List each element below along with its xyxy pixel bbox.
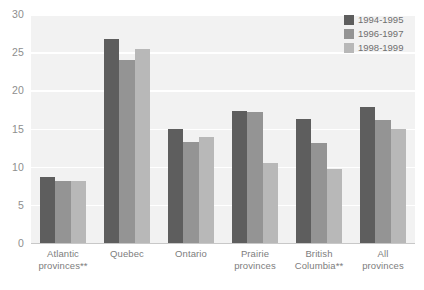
bar-group — [95, 14, 159, 243]
bar — [135, 49, 151, 243]
x-axis-category-label: Prairieprovinces — [223, 248, 287, 272]
legend-item[interactable]: 1994-1995 — [344, 13, 422, 26]
category-label-line: provinces — [351, 260, 415, 272]
y-axis-tick-label: 10 — [0, 161, 24, 172]
legend-swatch-icon — [344, 29, 354, 39]
y-axis-tick-label: 25 — [0, 47, 24, 58]
category-label-line: provinces** — [31, 260, 95, 272]
x-axis-category-label: Quebec — [95, 248, 159, 260]
bar-group — [31, 14, 95, 243]
bar — [327, 169, 343, 243]
bar — [232, 111, 248, 243]
x-axis-category-labels: Atlanticprovinces**QuebecOntarioPrairiep… — [31, 248, 415, 288]
legend-swatch-icon — [344, 43, 354, 53]
bar — [40, 177, 56, 243]
bar — [296, 119, 312, 243]
legend-label: 1996-1997 — [358, 28, 403, 39]
bar-group — [159, 14, 223, 243]
bar — [360, 107, 376, 243]
chart-legend: 1994-19951996-19971998-1999 — [344, 13, 422, 55]
bar-group — [223, 14, 287, 243]
x-axis-baseline — [31, 243, 415, 244]
category-label-line: All — [351, 248, 415, 260]
legend-item[interactable]: 1998-1999 — [344, 41, 422, 54]
y-axis-tick-label: 5 — [0, 200, 24, 211]
bar — [55, 181, 71, 243]
bar — [71, 181, 87, 243]
y-axis-tick-label: 15 — [0, 123, 24, 134]
category-label-line: provinces — [223, 260, 287, 272]
bar — [183, 142, 199, 243]
bar — [263, 163, 279, 243]
bar — [247, 112, 263, 243]
legend-item[interactable]: 1996-1997 — [344, 27, 422, 40]
bar — [104, 39, 120, 243]
category-label-line: Prairie — [223, 248, 287, 260]
bar — [119, 60, 135, 243]
category-label-line: Quebec — [95, 248, 159, 260]
y-axis-tick-label: 0 — [0, 238, 24, 249]
bar — [375, 120, 391, 243]
y-axis: 051015202530 — [0, 0, 30, 290]
category-label-line: Atlantic — [31, 248, 95, 260]
bar-group — [287, 14, 351, 243]
bar — [199, 137, 215, 243]
category-label-line: Ontario — [159, 248, 223, 260]
category-label-line: British — [287, 248, 351, 260]
x-axis-category-label: Ontario — [159, 248, 223, 260]
legend-label: 1994-1995 — [358, 14, 403, 25]
x-axis-category-label: Allprovinces — [351, 248, 415, 272]
x-axis-category-label: BritishColumbia** — [287, 248, 351, 272]
legend-swatch-icon — [344, 15, 354, 25]
y-axis-tick-label: 30 — [0, 9, 24, 20]
bar — [311, 143, 327, 243]
bar — [168, 129, 184, 243]
x-axis-category-label: Atlanticprovinces** — [31, 248, 95, 272]
bar — [391, 129, 407, 244]
legend-label: 1998-1999 — [358, 42, 403, 53]
bar-chart: 051015202530 Atlanticprovinces**QuebecOn… — [0, 0, 424, 290]
category-label-line: Columbia** — [287, 260, 351, 272]
y-axis-tick-label: 20 — [0, 85, 24, 96]
